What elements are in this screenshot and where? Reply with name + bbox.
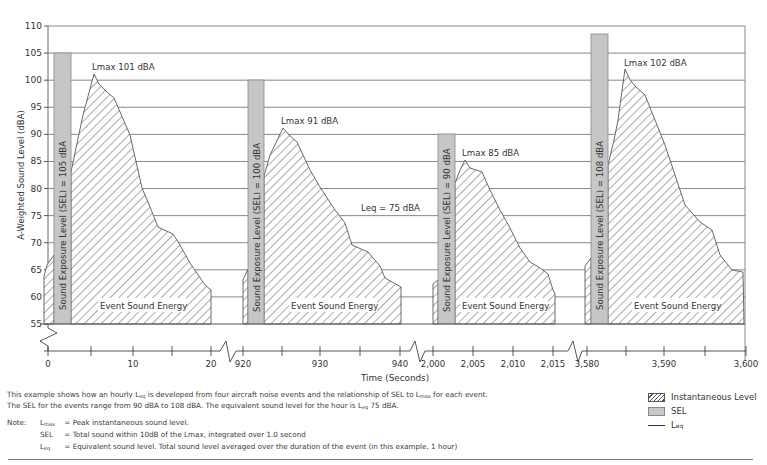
- lmax-label: Lmax 102 dBA: [624, 58, 687, 68]
- lmax-label: Lmax 85 dBA: [462, 148, 519, 158]
- x-tick-label: 20: [206, 359, 217, 369]
- note-definition: Equivalent sound level. Total sound leve…: [73, 442, 458, 451]
- lmax-label: Lmax 91 dBA: [281, 116, 338, 126]
- note-row-sel: SEL = Total sound within 10dB of the Lma…: [40, 430, 306, 439]
- x-tick-label: 2,010: [501, 359, 526, 369]
- instantaneous-level-area: [264, 128, 401, 324]
- legend-label: Instantaneous Level: [671, 392, 757, 402]
- instantaneous-level-area: [433, 280, 438, 324]
- axis-break-icon: [40, 324, 57, 351]
- event-4: Sound Exposure Level (SEL) = 108 dBA Lma…: [585, 34, 744, 324]
- x-tick-label: 3,580: [575, 359, 600, 369]
- noise-chart: 556065707580859095100105110 A-Weighted S…: [0, 0, 767, 400]
- bottom-divider: [8, 459, 753, 460]
- note-row-leq: Leq = Equivalent sound level. Total soun…: [40, 442, 457, 451]
- note-definition: Peak instantaneous sound level.: [73, 418, 189, 427]
- x-tick-label: 2,015: [541, 359, 566, 369]
- leq-label: Leq = 75 dBA: [361, 203, 420, 213]
- x-tick-label: 10: [128, 359, 139, 369]
- x-tick-label: 0: [45, 359, 50, 369]
- caption-text: for each event.: [431, 390, 488, 399]
- event-energy-label: Event Sound Energy: [634, 301, 721, 311]
- note-term-sub: max: [44, 421, 55, 427]
- instantaneous-level-area: [71, 74, 211, 324]
- caption-text: This example shows how an hourly L: [7, 390, 139, 399]
- caption-text: 75 dBA.: [368, 401, 398, 410]
- legend-item-sel: SEL: [648, 404, 757, 418]
- x-tick-label: 3,600: [734, 359, 759, 369]
- legend-item-leq: Leq: [648, 418, 757, 432]
- y-tick-label: 70: [31, 238, 43, 248]
- sel-swatch-icon: [648, 407, 665, 416]
- note-term: SEL: [40, 430, 53, 439]
- sel-label: Sound Exposure Level (SEL) = 108 dBA: [595, 141, 605, 310]
- note-eq: =: [64, 418, 70, 427]
- note-term-sub: eq: [44, 445, 50, 451]
- lmax-label: Lmax 101 dBA: [92, 62, 155, 72]
- event-energy-label: Event Sound Energy: [100, 301, 187, 311]
- y-tick-label: 80: [31, 184, 43, 194]
- x-tick-label: 920: [235, 359, 251, 369]
- caption-text: is developed from four aircraft noise ev…: [145, 390, 419, 399]
- caption-line-2: The SEL for the events range from 90 dBA…: [7, 401, 399, 410]
- line-swatch-icon: [648, 425, 665, 426]
- y-tick-label: 65: [31, 265, 42, 275]
- note-label: Note:: [7, 418, 26, 427]
- y-tick-label: 100: [25, 75, 42, 85]
- x-axis-ticks: 010209209309402,0002,0052,0102,0153,5803…: [45, 346, 758, 369]
- instantaneous-level-area: [44, 255, 54, 324]
- sel-label: Sound Exposure Level (SEL) = 100 dBA: [252, 143, 262, 312]
- x-tick-label: 2,005: [461, 359, 486, 369]
- event-3: Sound Exposure Level (SEL) = 90 dBA Lmax…: [433, 134, 555, 324]
- sel-label: Sound Exposure Level (SEL) = 105 dBA: [58, 141, 68, 310]
- event-2: Sound Exposure Level (SEL) = 100 dBA Lma…: [243, 80, 420, 324]
- legend-item-instantaneous: Instantaneous Level: [648, 390, 757, 404]
- note-row-lmax: Lmax = Peak instantaneous sound level.: [40, 418, 189, 427]
- event-energy-label: Event Sound Energy: [462, 301, 549, 311]
- hatch-swatch-icon: [648, 393, 665, 402]
- y-tick-label: 95: [31, 102, 42, 112]
- caption-text: The SEL for the events range from 90 dBA…: [7, 401, 362, 410]
- sel-label: Sound Exposure Level (SEL) = 90 dBA: [442, 148, 452, 312]
- y-tick-label: 75: [31, 211, 42, 221]
- y-tick-label: 85: [31, 156, 42, 166]
- y-tick-label: 110: [25, 21, 42, 31]
- caption-line-1: This example shows how an hourly Leq is …: [7, 390, 488, 399]
- instantaneous-level-area: [585, 258, 591, 324]
- legend-label: SEL: [671, 406, 687, 416]
- x-tick-label: 3,590: [652, 359, 677, 369]
- y-tick-label: 90: [31, 129, 43, 139]
- note-eq: =: [64, 430, 70, 439]
- instantaneous-level-area: [243, 269, 248, 324]
- x-tick-label: 940: [392, 359, 408, 369]
- note-definition: Total sound within 10dB of the Lmax, int…: [73, 430, 306, 439]
- caption-sub: max: [420, 393, 431, 399]
- x-tick-label: 930: [312, 359, 328, 369]
- x-tick-label: 2,000: [421, 359, 446, 369]
- event-energy-label: Event Sound Energy: [291, 301, 378, 311]
- legend: Instantaneous Level SEL Leq: [648, 390, 757, 432]
- y-axis-title: A-Weighted Sound Level (dBA): [16, 110, 26, 240]
- x-axis-title: Time (Seconds): [360, 373, 429, 383]
- note-eq: =: [64, 442, 70, 451]
- legend-label-sub: eq: [676, 422, 683, 429]
- y-tick-label: 105: [25, 48, 42, 58]
- y-tick-label: 60: [31, 292, 43, 302]
